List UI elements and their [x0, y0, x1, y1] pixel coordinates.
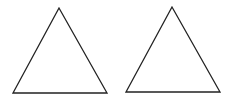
triangles-diagram [0, 0, 233, 105]
left-triangle [13, 8, 107, 93]
right-triangle [126, 7, 220, 92]
